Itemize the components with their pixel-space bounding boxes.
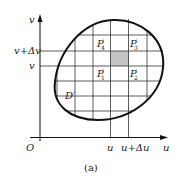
origin-label: O′ bbox=[26, 141, 36, 153]
figure-caption: (a) bbox=[84, 162, 98, 173]
y-axis-label: v bbox=[29, 14, 35, 25]
y-tick-v: v bbox=[29, 60, 35, 71]
region-label: D′ bbox=[64, 90, 76, 101]
point-p3: P′3 bbox=[129, 37, 138, 51]
x-axis-label: u bbox=[163, 142, 169, 153]
y-axis-arrow-icon bbox=[38, 14, 43, 22]
y-tick-v-plus-dv: v+Δv bbox=[14, 45, 41, 56]
x-tick-u-plus-du: u+Δu bbox=[121, 142, 149, 153]
x-axis-arrow-icon bbox=[160, 135, 168, 140]
point-p2: P′2 bbox=[129, 67, 138, 81]
diagram-figure: v u O′ v+Δv v u u+Δu D′ P′4 P′3 P′1 P′2 … bbox=[0, 0, 182, 182]
x-tick-u: u bbox=[107, 142, 113, 153]
point-p4: P′4 bbox=[96, 37, 105, 51]
shaded-cell bbox=[111, 51, 129, 66]
point-p1: P′1 bbox=[96, 67, 105, 81]
